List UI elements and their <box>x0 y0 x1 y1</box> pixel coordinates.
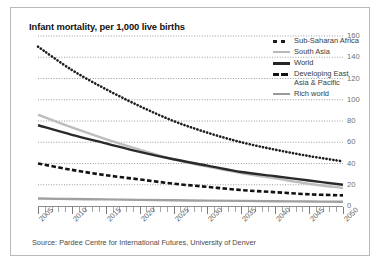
x-axis-tick-label: 2025 <box>173 205 191 223</box>
chart-legend: Sub-Saharan AfricaSouth AsiaWorldDevelop… <box>273 36 373 100</box>
x-axis-minor-tick <box>99 207 100 212</box>
x-axis-major-tick <box>174 207 175 214</box>
x-axis-major-tick <box>72 207 73 214</box>
legend-label: Rich world <box>294 89 329 98</box>
x-axis-minor-tick <box>167 207 168 212</box>
x-axis-tick-label: 2005 <box>37 205 55 223</box>
chart-frame: Infant mortality, per 1,000 live births … <box>10 7 370 256</box>
legend-item: South Asia <box>273 47 373 57</box>
source-note: Source: Pardee Centre for International … <box>32 238 256 247</box>
legend-swatch-icon <box>273 51 290 53</box>
legend-item: Developing East Asia & Pacific <box>273 69 373 88</box>
x-axis-major-tick <box>309 207 310 214</box>
x-axis-minor-tick <box>228 207 229 212</box>
x-axis-tick-label: 2020 <box>139 205 157 223</box>
x-axis-minor-tick <box>160 207 161 212</box>
legend-label: Sub-Saharan Africa <box>294 36 359 45</box>
x-axis-tick-label: 2050 <box>342 205 360 223</box>
y-axis-tick-label: 60 <box>347 138 355 146</box>
series-line <box>38 199 343 202</box>
x-axis-major-tick <box>140 207 141 214</box>
x-axis-minor-tick <box>65 207 66 212</box>
series-line <box>38 115 343 188</box>
legend-label: Developing East Asia & Pacific <box>294 69 349 88</box>
y-axis-tick-label: 40 <box>347 160 355 168</box>
legend-swatch-icon <box>273 93 290 95</box>
x-axis-minor-tick <box>262 207 263 212</box>
x-axis-minor-tick <box>329 207 330 212</box>
x-axis-major-tick <box>275 207 276 214</box>
legend-swatch-icon <box>273 73 290 76</box>
x-axis-minor-tick <box>194 207 195 212</box>
x-axis-minor-tick <box>201 207 202 212</box>
series-line <box>38 125 343 185</box>
y-axis-tick-label: 80 <box>347 117 355 125</box>
x-axis-major-tick <box>343 207 344 214</box>
x-axis-minor-tick <box>268 207 269 212</box>
x-axis-minor-tick <box>133 207 134 212</box>
legend-label: South Asia <box>294 47 330 56</box>
legend-item: World <box>273 58 373 68</box>
x-axis-minor-tick <box>235 207 236 212</box>
legend-item: Rich world <box>273 89 373 99</box>
x-axis-minor-tick <box>302 207 303 212</box>
x-axis-major-tick <box>38 207 39 214</box>
legend-item: Sub-Saharan Africa <box>273 36 373 46</box>
y-axis-tick-label: 20 <box>347 181 355 189</box>
x-axis-minor-tick <box>126 207 127 212</box>
x-axis-tick-label: 2010 <box>71 205 89 223</box>
legend-swatch-icon <box>273 62 290 65</box>
legend-swatch-icon <box>273 40 290 43</box>
legend-label: World <box>294 58 313 67</box>
x-axis-tick-label: 2015 <box>105 205 123 223</box>
x-axis-minor-tick <box>92 207 93 212</box>
x-axis-minor-tick <box>336 207 337 212</box>
x-axis-minor-tick <box>296 207 297 212</box>
chart-title: Infant mortality, per 1,000 live births <box>29 21 185 32</box>
x-axis-minor-tick <box>58 207 59 212</box>
x-axis-major-tick <box>106 207 107 214</box>
